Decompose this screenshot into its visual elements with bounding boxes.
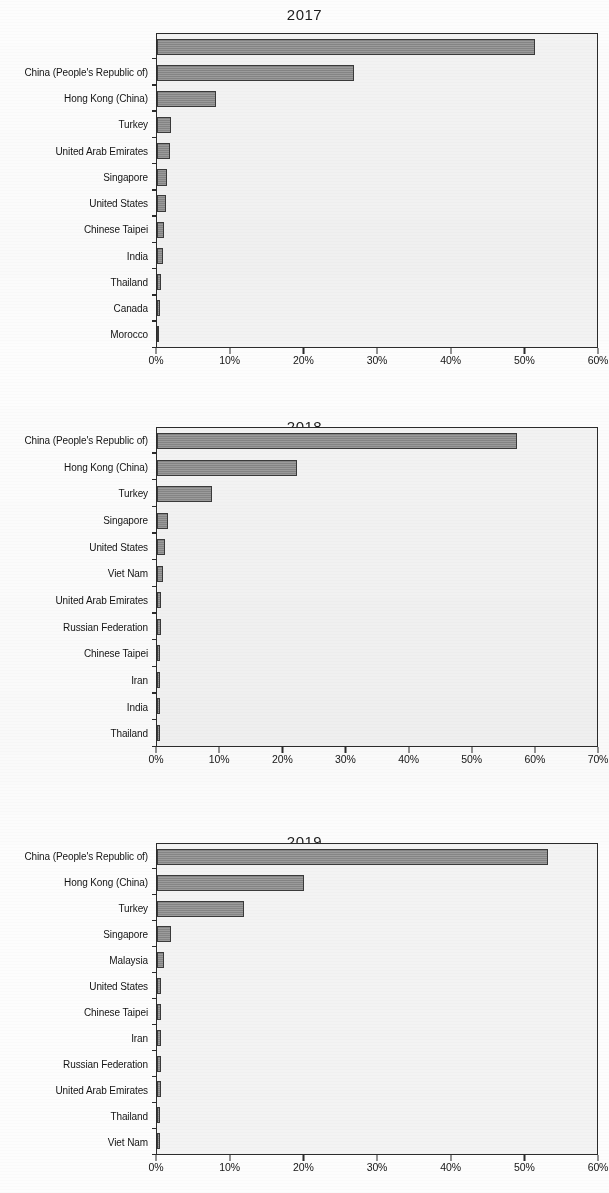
bar-row [157, 164, 597, 190]
x-axis-labels: 0%10%20%30%40%50%60% [156, 1161, 598, 1177]
category-label: Viet Nam [0, 560, 152, 587]
category-axis-labels: China (People's Republic of)Hong Kong (C… [0, 33, 152, 348]
bar-row [157, 534, 597, 561]
category-label: Turkey [0, 895, 152, 921]
bar [157, 433, 517, 449]
bar-row [157, 693, 597, 720]
category-label: Thailand [0, 269, 152, 295]
bar-row [157, 455, 597, 482]
bar-row [157, 587, 597, 614]
x-axis-tick-label: 50% [514, 1161, 535, 1173]
bar-row [157, 1102, 597, 1128]
bar-row [157, 269, 597, 295]
bar [157, 849, 548, 865]
category-label: Chinese Taipei [0, 217, 152, 243]
category-label: Thailand [0, 1103, 152, 1129]
chart-title: 2017 [0, 6, 609, 23]
plot-area [156, 843, 598, 1155]
category-axis-labels: China (People's Republic of)Hong Kong (C… [0, 427, 152, 747]
bar-rows [157, 428, 597, 746]
bar-rows [157, 34, 597, 347]
x-axis-tick-label: 50% [461, 753, 482, 765]
category-label: Chinese Taipei [0, 999, 152, 1025]
x-axis-tick-label: 0% [149, 354, 164, 366]
bar [157, 222, 164, 238]
bar-row [157, 870, 597, 896]
category-label: Viet Nam [0, 1129, 152, 1155]
category-label: Turkey [0, 480, 152, 507]
category-label: India [0, 694, 152, 721]
category-label: Canada [0, 296, 152, 322]
category-label: Russian Federation [0, 614, 152, 641]
bar-row [157, 34, 597, 60]
bar [157, 875, 304, 891]
bar-row [157, 60, 597, 86]
bar [157, 619, 161, 635]
bar [157, 698, 160, 714]
bar [157, 1056, 161, 1072]
plot-area [156, 427, 598, 747]
chart-2017: 2017 China (People's Republic of)Hong Ko… [0, 0, 609, 395]
chart-2018: 2018 China (People's Republic of)Hong Ko… [0, 395, 609, 810]
bar-row [157, 86, 597, 112]
bar [157, 460, 297, 476]
x-axis-tick-label: 10% [219, 354, 240, 366]
category-label: India [0, 243, 152, 269]
bar-row [157, 295, 597, 321]
x-axis-tick-label: 20% [293, 354, 314, 366]
bar [157, 169, 167, 185]
bar-row [157, 844, 597, 870]
category-label: United Arab Emirates [0, 138, 152, 164]
bar [157, 1107, 160, 1123]
bar [157, 1004, 161, 1020]
bar-row [157, 640, 597, 667]
bar-row [157, 999, 597, 1025]
category-label: Chinese Taipei [0, 640, 152, 667]
x-axis-tick-label: 30% [367, 354, 388, 366]
bar [157, 326, 159, 342]
bar-rows [157, 844, 597, 1154]
bar-row [157, 190, 597, 216]
x-axis-tick-label: 70% [588, 753, 609, 765]
category-label: Hong Kong (China) [0, 869, 152, 895]
x-axis-tick-label: 60% [524, 753, 545, 765]
bar [157, 926, 171, 942]
bar [157, 566, 163, 582]
bar-row [157, 720, 597, 747]
bar [157, 978, 161, 994]
bar [157, 592, 161, 608]
bar-row [157, 112, 597, 138]
category-label: United Arab Emirates [0, 587, 152, 614]
x-axis-tick-label: 20% [272, 753, 293, 765]
x-axis-tick-label: 30% [335, 753, 356, 765]
category-label [0, 33, 152, 59]
category-label: Morocco [0, 322, 152, 348]
category-label: Thailand [0, 720, 152, 747]
category-label: United States [0, 973, 152, 999]
category-label: Iran [0, 1025, 152, 1051]
x-axis-labels: 0%10%20%30%40%50%60% [156, 354, 598, 370]
bar-row [157, 561, 597, 588]
bar [157, 143, 170, 159]
bar [157, 672, 160, 688]
x-axis-tick-label: 40% [440, 1161, 461, 1173]
bar [157, 39, 535, 55]
bar [157, 91, 216, 107]
category-label: Iran [0, 667, 152, 694]
bar-row [157, 1051, 597, 1077]
category-label: United States [0, 534, 152, 561]
x-axis-tick-label: 50% [514, 354, 535, 366]
category-label: United States [0, 191, 152, 217]
bar-row [157, 243, 597, 269]
bar-row [157, 614, 597, 641]
bar [157, 117, 171, 133]
category-label: Turkey [0, 112, 152, 138]
bar [157, 645, 160, 661]
category-axis-labels: China (People's Republic of)Hong Kong (C… [0, 843, 152, 1155]
bar-row [157, 138, 597, 164]
bar [157, 539, 165, 555]
bar [157, 248, 163, 264]
x-axis-tick-label: 20% [293, 1161, 314, 1173]
category-label: United Arab Emirates [0, 1077, 152, 1103]
bar [157, 513, 168, 529]
